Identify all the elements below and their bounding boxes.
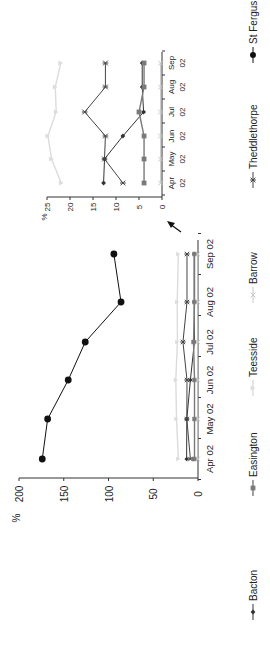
- series-line: [176, 254, 179, 459]
- legend: BactonEasingtonTeessideBarrowTheddlethor…: [248, 1, 259, 620]
- inset-category-year-label: 02: [178, 154, 187, 163]
- diamond-marker-icon: [251, 610, 256, 615]
- main-category-label: Apr 02: [204, 445, 215, 473]
- inset-category-year-label: 02: [178, 107, 187, 116]
- inset-value-tick-label: 15: [89, 202, 98, 211]
- main-category-label: May 02: [204, 403, 215, 434]
- legend-item-bacton: Bacton: [248, 570, 259, 620]
- inset-category-year-label: 02: [178, 82, 187, 91]
- inset-chart: 0510152025%Apr02May02Jun02Jul02Aug02Sep0…: [40, 51, 187, 221]
- circle-marker-icon: [39, 456, 46, 463]
- series-line: [139, 63, 144, 183]
- inset-category-label: Jul: [167, 107, 176, 117]
- circle-marker-icon: [110, 251, 117, 258]
- main-category-label: Jul 02: [204, 329, 215, 354]
- asterisk-marker-icon: [120, 181, 126, 186]
- inset-unit-label: %: [40, 213, 49, 220]
- legend-label: Bacton: [248, 570, 259, 601]
- inset-category-year-label: 02: [178, 131, 187, 140]
- main-value-tick-label: 150: [59, 485, 70, 502]
- square-marker-icon: [142, 134, 147, 139]
- legend-label: Theddlethorpe: [248, 104, 259, 169]
- legend-item-easington: Easington: [248, 433, 259, 496]
- legend-label: Easington: [248, 433, 259, 477]
- inset-category-label: May: [167, 151, 176, 166]
- legend-item-st-fergus: St Fergus: [248, 1, 259, 63]
- main-series-teesside: [174, 252, 181, 461]
- main-category-label: Sep 02: [204, 239, 215, 269]
- circle-marker-icon: [82, 339, 89, 346]
- main-chart: 050100150200%Apr 02May 02Jun 02Jul 02Aug…: [11, 234, 215, 523]
- circle-marker-icon: [65, 377, 72, 384]
- square-marker-icon: [251, 486, 256, 491]
- legend-item-barrow: Barrow: [248, 252, 259, 303]
- legend-label: Barrow: [248, 252, 259, 284]
- legend-item-teesside: Teesside: [248, 337, 259, 396]
- circle-marker-icon: [118, 299, 125, 306]
- main-category-label: Aug 02: [204, 287, 215, 317]
- circle-marker-icon: [44, 416, 51, 423]
- inset-category-year-label: 02: [178, 178, 187, 187]
- chart-figure: 050100150200%Apr 02May 02Jun 02Jul 02Aug…: [0, 0, 270, 655]
- inset-series-bacton: [101, 61, 146, 186]
- main-series-st-fergus: [39, 251, 125, 463]
- main-value-tick-label: 50: [148, 488, 159, 500]
- square-marker-icon: [142, 61, 147, 66]
- rotated-chart-canvas: 050100150200%Apr 02May 02Jun 02Jul 02Aug…: [0, 0, 270, 655]
- inset-value-tick-label: 10: [112, 202, 121, 211]
- square-marker-icon: [142, 85, 147, 90]
- main-unit-label: %: [11, 513, 22, 522]
- series-line: [48, 63, 61, 183]
- legend-label: Teesside: [248, 337, 259, 377]
- main-series-easington: [191, 252, 196, 461]
- main-category-label: Jun 02: [204, 366, 215, 395]
- inset-category-year-label: 02: [178, 58, 187, 67]
- inset-value-tick-label: 0: [158, 204, 167, 209]
- inset-category-label: Aug: [167, 80, 176, 94]
- inset-value-tick-label: 5: [135, 204, 144, 209]
- series-line: [42, 254, 121, 459]
- square-marker-icon: [142, 181, 147, 186]
- inset-category-label: Jun: [167, 130, 176, 143]
- main-value-tick-label: 200: [14, 485, 25, 502]
- inset-category-label: Apr: [167, 176, 176, 189]
- inset-category-label: Sep: [167, 55, 176, 70]
- main-value-tick-label: 100: [104, 485, 115, 502]
- legend-item-theddlethorpe: Theddlethorpe: [248, 104, 259, 188]
- inset-value-tick-label: 20: [66, 202, 75, 211]
- square-marker-icon: [142, 157, 147, 162]
- inset-series-easington: [137, 61, 147, 186]
- square-marker-icon: [137, 110, 142, 115]
- main-value-tick-label: 0: [193, 491, 204, 497]
- diamond-marker-icon: [101, 181, 106, 186]
- inset-series-teesside: [46, 61, 64, 186]
- asterisk-marker-icon: [82, 110, 88, 115]
- circle-marker-icon: [250, 52, 256, 58]
- square-marker-icon: [191, 340, 195, 344]
- inset-value-tick-label: 25: [43, 202, 52, 211]
- legend-label: St Fergus: [248, 1, 259, 44]
